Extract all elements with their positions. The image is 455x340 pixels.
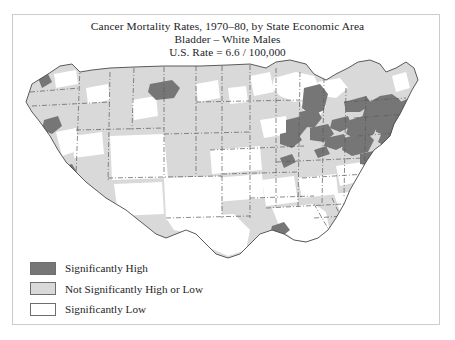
map-svg (14, 58, 438, 266)
legend-swatch-not-significant (30, 282, 56, 295)
map-base-fill (14, 58, 438, 266)
map-legend: Significantly High Not Significantly Hig… (30, 258, 203, 320)
legend-label-not-significant: Not Significantly High or Low (65, 283, 203, 295)
legend-swatch-high (30, 262, 56, 275)
legend-label-low: Significantly Low (65, 303, 146, 315)
us-choropleth-map (14, 58, 438, 266)
legend-label-high: Significantly High (65, 262, 148, 274)
title-line-2: Bladder – White Males (0, 33, 455, 46)
legend-item-low: Significantly Low (30, 299, 203, 320)
legend-item-not-significant: Not Significantly High or Low (30, 279, 203, 300)
figure-page: Cancer Mortality Rates, 1970–80, by Stat… (0, 0, 455, 340)
legend-swatch-low (30, 303, 56, 316)
title-line-1: Cancer Mortality Rates, 1970–80, by Stat… (0, 20, 455, 33)
figure-title-block: Cancer Mortality Rates, 1970–80, by Stat… (0, 20, 455, 60)
legend-item-high: Significantly High (30, 258, 203, 279)
